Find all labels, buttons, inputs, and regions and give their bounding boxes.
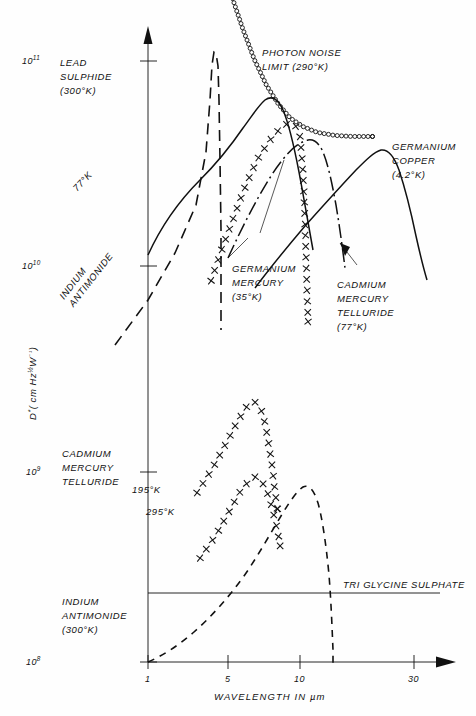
data-marker-x [205, 471, 212, 478]
data-marker-x [267, 136, 274, 143]
data-marker-x [299, 166, 306, 173]
data-marker-x [275, 533, 282, 540]
y-title-w: W [27, 357, 38, 367]
data-marker-x [243, 404, 250, 411]
data-marker-x [222, 236, 228, 242]
x-tick-label-5: 5 [225, 674, 231, 684]
annotation-insb-77k: 77°K [70, 169, 94, 193]
y-tick-label-1e9: 109 [26, 465, 41, 477]
data-marker-circle [353, 134, 357, 138]
data-marker-circle [322, 132, 326, 136]
label-cmt-195k: 195°K [132, 484, 161, 495]
series-indium-antimonide-300k [148, 486, 333, 664]
data-marker-x [298, 144, 304, 150]
data-marker-circle [253, 59, 257, 63]
data-marker-circle [247, 42, 251, 46]
data-marker-circle [262, 79, 266, 83]
data-marker-circle [245, 38, 249, 42]
data-marker-x [246, 174, 252, 180]
data-marker-x [203, 546, 209, 552]
data-marker-x [227, 432, 234, 439]
data-marker-circle [260, 75, 264, 79]
data-marker-x [230, 215, 237, 222]
x-tick-label-10: 10 [294, 674, 305, 684]
data-marker-x [303, 287, 310, 294]
x-tick-labels: 1 5 10 30 [145, 674, 419, 684]
annotation-germanium-copper: GERMANIUM COPPER (4.2°K) [392, 141, 456, 180]
label-cmt-lower-l2: MERCURY [62, 462, 114, 473]
data-marker-x [209, 536, 216, 543]
label-cmt-77k-l2: MERCURY [337, 293, 389, 304]
label-insb-77k: 77°K [70, 169, 94, 193]
data-marker-x [277, 543, 283, 549]
y-axis-arrow [144, 26, 153, 44]
data-marker-x [273, 494, 279, 500]
label-photon-noise-l2: LIMIT (290°K) [262, 61, 328, 72]
data-marker-circle [366, 134, 370, 138]
label-cmt-77k-l4: (77°K) [337, 321, 367, 332]
y-title-d: D [27, 413, 38, 420]
data-marker-x [296, 133, 303, 140]
data-marker-x [226, 225, 233, 232]
data-marker-x [241, 184, 248, 191]
data-marker-circle [250, 50, 254, 54]
label-insb-300k-l2: ANTIMONIDE [61, 610, 127, 621]
data-marker-x [303, 276, 309, 282]
data-marker-x [252, 473, 259, 480]
label-insb-300k-l3: (300°K) [62, 624, 98, 635]
data-marker-circle [251, 55, 255, 59]
data-marker-x [231, 498, 238, 505]
data-marker-circle [344, 134, 348, 138]
data-marker-x [208, 277, 215, 284]
data-marker-x [267, 450, 274, 457]
data-marker-circle [305, 126, 309, 130]
label-cmt-77k-l3: TELLURIDE [337, 307, 394, 318]
data-marker-x [305, 318, 312, 325]
data-marker-x [303, 243, 309, 249]
label-lead-sulphide-l3: (300°K) [60, 85, 96, 96]
data-marker-x [303, 265, 310, 272]
label-germanium-copper-l1: GERMANIUM [392, 141, 456, 152]
y-axis-ticks [140, 61, 157, 662]
data-marker-x [217, 452, 223, 458]
data-marker-circle [266, 86, 270, 90]
label-germanium-mercury-l3: (35°K) [232, 291, 262, 302]
label-lead-sulphide-l2: SULPHIDE [60, 71, 112, 82]
data-marker-circle [239, 22, 243, 26]
label-cmt-lower-l1: CADMIUM [62, 448, 111, 459]
x-tick-label-1: 1 [145, 674, 150, 684]
x-axis-title: WAVELENGTH IN µm [214, 691, 326, 702]
data-marker-x [269, 462, 275, 468]
series-cmt-295k [196, 473, 283, 561]
data-marker-x [265, 440, 272, 447]
data-marker-circle [290, 117, 294, 121]
data-marker-x [302, 232, 309, 239]
label-germanium-copper-l2: COPPER [392, 155, 435, 166]
label-cmt-77k-l1: CADMIUM [337, 279, 386, 290]
y-title-units-open: ( cm Hz [27, 373, 38, 410]
label-cmt-lower-l3: TELLURIDE [62, 476, 119, 487]
detectivity-vs-wavelength-plot: 1011 1010 109 108 1 5 10 30 WAVELENGTH I… [0, 0, 476, 716]
data-marker-circle [233, 5, 237, 9]
data-marker-x [243, 480, 250, 487]
data-marker-circle [235, 9, 239, 13]
data-marker-x [232, 423, 238, 429]
data-marker-circle [331, 133, 335, 137]
label-germanium-copper-l3: (4.2°K) [392, 169, 426, 180]
data-marker-circle [238, 17, 242, 21]
annotation-insb-upper: INDIUM ANTIMONIDE [56, 243, 115, 309]
data-marker-x [221, 518, 227, 524]
label-photon-noise-l1: PHOTON NOISE [262, 47, 341, 58]
data-marker-x [264, 490, 271, 497]
annotation-lead-sulphide: LEAD SULPHIDE (300°K) [60, 57, 112, 96]
data-marker-x [264, 429, 270, 435]
data-marker-circle [301, 125, 305, 129]
data-marker-circle [269, 90, 273, 94]
data-marker-x [261, 145, 267, 151]
data-marker-circle [236, 13, 240, 17]
data-marker-x [211, 267, 217, 273]
y-tick-label-1e10: 1010 [22, 259, 41, 271]
data-marker-x [250, 164, 257, 171]
chart-figure: 1011 1010 109 108 1 5 10 30 WAVELENGTH I… [0, 0, 476, 716]
data-marker-x [274, 505, 281, 512]
